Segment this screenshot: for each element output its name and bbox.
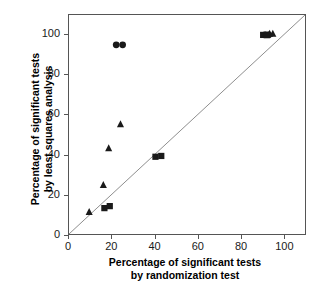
- x-tick-100: [284, 235, 285, 239]
- x-tick-80: [241, 235, 242, 239]
- data-point-square: [107, 203, 113, 209]
- data-point-circle: [113, 41, 120, 48]
- data-markers: [86, 30, 277, 215]
- data-point-triangle: [117, 120, 124, 127]
- data-point-square: [152, 154, 158, 160]
- x-tick-label-60: 60: [178, 240, 218, 252]
- data-point-circle: [119, 41, 126, 48]
- x-tick-label-40: 40: [135, 240, 175, 252]
- plot-canvas: [69, 15, 305, 234]
- identity-line: [69, 15, 305, 234]
- clipped-text-artifact: [0, 0, 332, 7]
- x-tick-0: [68, 235, 69, 239]
- y-axis-title-line2: by least squares analysis: [42, 19, 55, 239]
- x-tick-40: [155, 235, 156, 239]
- data-point-triangle: [105, 144, 112, 151]
- y-tick-80: [64, 74, 68, 75]
- identity-reference-line: [69, 15, 305, 234]
- data-point-triangle: [86, 208, 93, 215]
- y-tick-20: [64, 195, 68, 196]
- x-tick-20: [111, 235, 112, 239]
- y-tick-0: [64, 235, 68, 236]
- x-tick-label-80: 80: [221, 240, 261, 252]
- data-point-square: [101, 205, 107, 211]
- plot-area: [68, 14, 306, 235]
- scatter-plot-figure: 020406080100 020406080100 Percentage of …: [0, 0, 332, 299]
- x-tick-60: [198, 235, 199, 239]
- y-tick-100: [64, 34, 68, 35]
- x-axis-title-line2: by randomization test: [50, 269, 320, 282]
- data-point-triangle: [100, 181, 107, 188]
- x-axis-title: Percentage of significant tests by rando…: [50, 256, 320, 282]
- y-tick-40: [64, 155, 68, 156]
- data-point-square: [263, 32, 269, 38]
- y-tick-60: [64, 114, 68, 115]
- x-tick-label-20: 20: [91, 240, 131, 252]
- x-axis-title-line1: Percentage of significant tests: [50, 256, 320, 269]
- x-tick-label-0: 0: [48, 240, 88, 252]
- x-tick-label-100: 100: [264, 240, 304, 252]
- y-axis-title: Percentage of significant tests by least…: [29, 19, 55, 239]
- data-point-square: [158, 153, 164, 159]
- y-axis-title-line1: Percentage of significant tests: [29, 19, 42, 239]
